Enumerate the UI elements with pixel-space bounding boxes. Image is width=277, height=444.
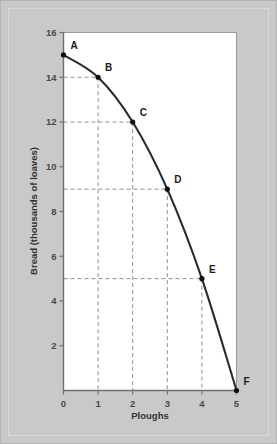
x-tick-label: 3 bbox=[165, 398, 170, 409]
data-point-marker bbox=[96, 75, 101, 80]
data-point-label: B bbox=[105, 62, 112, 73]
x-tick-label: 5 bbox=[234, 398, 240, 409]
production-possibilities-chart: 246810121416 012345 ABCDEF Ploughs Bread… bbox=[1, 1, 277, 444]
y-axis-title: Bread (thousands of loaves) bbox=[28, 147, 39, 275]
y-tick-label: 12 bbox=[46, 116, 57, 127]
y-tick-label: 6 bbox=[51, 251, 56, 262]
data-point-marker bbox=[130, 119, 135, 124]
plot-area bbox=[64, 33, 237, 391]
y-axis-ticks: 246810121416 bbox=[46, 27, 64, 351]
data-point-label: A bbox=[71, 40, 78, 51]
y-tick-label: 10 bbox=[46, 161, 57, 172]
x-tick-label: 2 bbox=[130, 398, 135, 409]
y-tick-label: 8 bbox=[51, 206, 56, 217]
data-point-marker bbox=[165, 187, 170, 192]
x-tick-label: 1 bbox=[95, 398, 101, 409]
y-tick-label: 4 bbox=[51, 295, 57, 306]
data-point-label: F bbox=[244, 376, 250, 387]
y-tick-label: 14 bbox=[46, 72, 57, 83]
data-point-marker bbox=[234, 388, 239, 393]
x-tick-label: 4 bbox=[199, 398, 205, 409]
data-point-label: C bbox=[140, 107, 147, 118]
data-point-label: D bbox=[174, 174, 181, 185]
chart-figure: 246810121416 012345 ABCDEF Ploughs Bread… bbox=[0, 0, 277, 444]
data-point-label: E bbox=[209, 264, 216, 275]
y-tick-label: 2 bbox=[51, 340, 56, 351]
x-tick-label: 0 bbox=[61, 398, 66, 409]
data-point-marker bbox=[61, 52, 66, 57]
y-tick-label: 16 bbox=[46, 27, 57, 38]
x-axis-title: Ploughs bbox=[131, 410, 168, 421]
x-axis-ticks: 012345 bbox=[61, 391, 240, 409]
data-point-marker bbox=[199, 276, 204, 281]
